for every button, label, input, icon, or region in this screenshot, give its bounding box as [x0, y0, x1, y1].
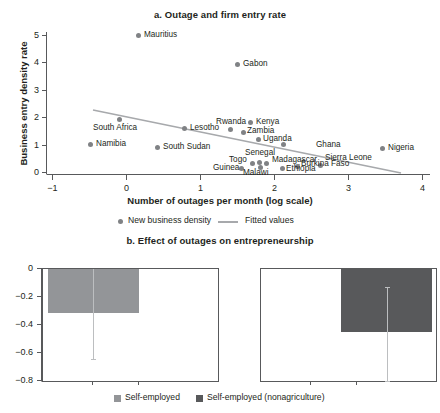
error-bar-cap-lower-self-employed [91, 359, 96, 360]
panel-b-left-xtick-1 [92, 382, 93, 385]
data-point-kenya [248, 120, 253, 125]
data-label-mauritius: Mauritius [144, 30, 177, 39]
data-point-lesotho [182, 126, 187, 131]
data-point-nigeria [380, 146, 385, 151]
panel-a-axes [0, 0, 440, 205]
data-label-gabon: Gabon [243, 59, 268, 68]
data-label-guinea: Guinea [213, 163, 239, 172]
error-bar-cap-upper-self-employed-nonagriculture [385, 287, 390, 288]
data-point-south-sudan [155, 145, 160, 150]
panel-a-x-axis-title: Number of outages per month (log scale) [0, 195, 440, 206]
panel-a-ytick-3: 3 [30, 85, 39, 95]
data-label-lesotho: Lesotho [190, 123, 219, 132]
panel-a-ytick-4: 4 [30, 57, 39, 67]
chart-panel-b: b. Effect of outages on entrepreneurship… [0, 238, 440, 413]
legend-label-self-employed-nonagriculture: Self-employed (nonagriculture) [207, 392, 325, 402]
panel-a-xtick-2: 1 [190, 183, 211, 193]
data-label-south-sudan: South Sudan [163, 142, 210, 151]
data-point-mauritius [136, 33, 141, 38]
panel-a-xtick-4: 3 [338, 183, 359, 193]
panel-b-left-xtick-2 [138, 382, 139, 385]
data-label-uganda: Uganda [263, 134, 292, 143]
panel-b-left-plot [42, 268, 219, 382]
panel-a-xtick-3: 2 [264, 183, 285, 193]
legend-swatch-self-employed-nonagriculture [196, 395, 203, 402]
error-bar-cap-lower-self-employed-nonagriculture [385, 381, 390, 382]
panel-b-right-xtick-1 [310, 382, 311, 385]
panel-b-right-xtick-2 [356, 382, 357, 385]
data-label-rwanda: Rwanda [216, 117, 246, 126]
panel-a-xtick-5: 4 [412, 183, 433, 193]
panel-b-legend: Self-employed Self-employed (nonagricult… [0, 392, 440, 406]
panel-a-ytick-1: 1 [30, 140, 39, 150]
data-point-gabon [235, 62, 240, 67]
fitted-values-line [93, 110, 401, 173]
data-label-nigeria: Nigeria [388, 143, 414, 152]
data-label-senegal: Senegal [245, 148, 275, 157]
data-label-south-africa: South Africa [93, 123, 137, 132]
data-point-zambia [241, 130, 246, 135]
panel-b-ytick-4: −0.8 [3, 375, 33, 385]
data-label-malawi: Malawi [243, 168, 268, 177]
panel-a-legend: New business density Fitted values [0, 215, 440, 229]
error-bar-self-employed-nonagriculture [387, 287, 388, 381]
data-label-namibia: Namibia [96, 139, 126, 148]
data-point-rwanda [228, 127, 233, 132]
error-bar-self-employed [93, 269, 94, 359]
data-point-south-africa [117, 117, 122, 122]
panel-b-ytick-2: −0.4 [3, 319, 33, 329]
panel-b-ytick-1: −0.2 [3, 291, 33, 301]
legend-swatch-self-employed [114, 395, 121, 402]
data-point-madagascar [264, 161, 269, 166]
data-label-sierra-leone: Sierra Leone [325, 153, 372, 162]
legend-label-fitted-values: Fitted values [245, 215, 294, 225]
legend-line-icon [218, 221, 238, 223]
data-point-ethiopia [280, 166, 285, 171]
panel-b-ytick-3: −0.6 [3, 347, 33, 357]
data-label-kenya: Kenya [256, 117, 279, 126]
panel-a-ytick-5: 5 [30, 30, 39, 40]
data-label-ghana: Ghana [316, 140, 341, 149]
panel-a-xtick-0: −1 [42, 183, 63, 193]
panel-b-right-plot [260, 268, 437, 382]
data-point-uganda [256, 137, 261, 142]
legend-label-new-business-density: New business density [128, 215, 211, 225]
data-point-togo [250, 161, 255, 166]
data-point-namibia [88, 142, 93, 147]
legend-dot-icon [118, 219, 123, 224]
panel-b-ytick-0: 0 [3, 263, 33, 273]
chart-panel-a: a. Outage and firm entry rate Business e… [0, 0, 440, 205]
panel-a-ytick-0: 0 [30, 167, 39, 177]
legend-label-self-employed: Self-employed [125, 392, 180, 402]
panel-a-ytick-2: 2 [30, 112, 39, 122]
panel-a-xtick-1: 0 [116, 183, 137, 193]
figure-root: a. Outage and firm entry rate Business e… [0, 0, 440, 413]
